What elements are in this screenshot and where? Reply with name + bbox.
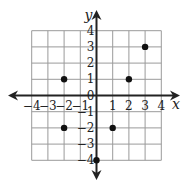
y-tick-label: 2 [87, 56, 95, 70]
data-point [110, 125, 116, 131]
coordinate-plane: −4−3−2−11234−4−3−2−101234 x y [0, 0, 188, 185]
data-point [61, 76, 67, 82]
data-point [93, 157, 99, 163]
data-point [61, 125, 67, 131]
y-tick-label: −2 [77, 121, 95, 135]
y-tick-label: −1 [77, 105, 95, 119]
x-tick-label: 1 [109, 99, 117, 113]
y-tick-label: 4 [87, 24, 95, 38]
x-tick-label: 3 [141, 99, 149, 113]
y-axis-label: y [84, 7, 94, 23]
x-tick-label: 2 [125, 99, 133, 113]
x-tick-label: −3 [39, 99, 57, 113]
x-tick-label: −2 [55, 99, 73, 113]
x-axis-label: x [172, 96, 180, 112]
data-point [142, 44, 148, 50]
y-tick-label: 0 [87, 89, 95, 103]
data-point [126, 76, 132, 82]
y-tick-label: 1 [87, 72, 95, 86]
y-tick-label: −3 [77, 137, 95, 151]
x-tick-label: 4 [157, 99, 165, 113]
y-tick-label: 3 [87, 40, 95, 54]
y-tick-label: −4 [77, 153, 95, 167]
